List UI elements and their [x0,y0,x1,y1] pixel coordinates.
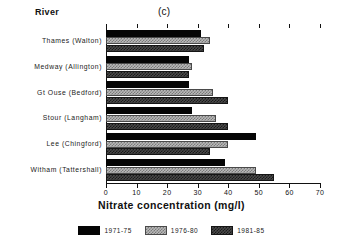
x-axis-tick-top [198,24,199,28]
x-axis-tick-label: 20 [154,189,180,196]
bar [106,141,228,148]
bar [106,56,189,63]
bar [106,123,228,130]
category-label: Thames (Walton) [2,37,102,44]
category-label: Gt Ouse (Bedford) [2,89,102,96]
legend: 1971-751976-801981-85 [0,226,343,235]
plot-area [106,28,320,183]
category-labels: Thames (Walton)Medway (Allington)Gt Ouse… [0,28,102,184]
x-axis-tick-label: 0 [93,189,119,196]
legend-label: 1976-80 [171,227,198,234]
category-label: Witham (Tattershall) [2,166,102,173]
x-axis-tick-label: 60 [276,189,302,196]
y-axis-title: River [35,7,59,17]
bar [106,107,192,114]
bar [106,133,256,140]
x-axis-tick [106,184,107,188]
legend-item: 1971-75 [78,226,131,235]
bar [106,30,201,37]
bar [106,63,192,70]
bar [106,148,210,155]
x-axis-tick-top [228,24,229,28]
legend-item: 1981-85 [211,226,264,235]
x-axis-tick [259,184,260,188]
category-label: Stour (Langham) [2,114,102,121]
nitrate-concentration-bar-chart: River (c) Thames (Walton)Medway (Allingt… [0,0,343,251]
x-axis-tick-label: 50 [246,189,272,196]
x-axis-tick [167,184,168,188]
bar [106,97,228,104]
x-axis-tick-top [289,24,290,28]
legend-swatch [211,226,233,235]
bar [106,45,204,52]
x-axis-tick-label: 40 [215,189,241,196]
x-axis-tick-top [259,24,260,28]
x-axis-tick-label: 70 [307,189,333,196]
bar [106,81,189,88]
category-label: Medway (Allington) [2,63,102,70]
x-axis-tick-label: 10 [124,189,150,196]
bar [106,115,216,122]
panel-label: (c) [158,6,170,17]
x-axis-tick [137,184,138,188]
legend-swatch [145,226,167,235]
x-axis-tick-top [320,24,321,28]
x-axis-tick-top [106,24,107,28]
bar [106,37,210,44]
x-axis-tick [289,184,290,188]
legend-swatch [78,226,100,235]
bar [106,89,213,96]
x-axis-tick-top [167,24,168,28]
bar [106,174,274,181]
bar [106,71,189,78]
x-axis-tick-label: 30 [185,189,211,196]
x-axis-tick-top [137,24,138,28]
x-axis-title: Nitrate concentration (mg/l) [0,199,343,211]
legend-label: 1971-75 [104,227,131,234]
category-label: Lee (Chingford) [2,140,102,147]
legend-label: 1981-85 [237,227,264,234]
x-axis-tick [228,184,229,188]
bar [106,167,256,174]
legend-item: 1976-80 [145,226,198,235]
x-axis-tick [198,184,199,188]
x-axis-tick [320,184,321,188]
bar [106,159,225,166]
